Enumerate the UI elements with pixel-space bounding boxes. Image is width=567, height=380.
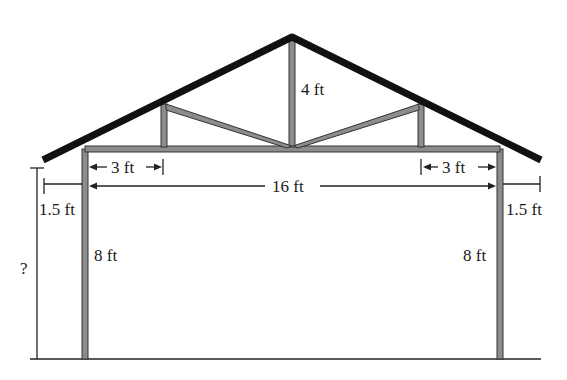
- right-overhang-dimension: [503, 176, 540, 192]
- unknown-height-label: ?: [20, 260, 28, 277]
- left-overhang-dimension: [44, 178, 82, 194]
- left-wall-height-label: 8 ft: [94, 247, 117, 264]
- right-wall-height-label: 8 ft: [463, 247, 486, 264]
- right-inner-span-label: 3 ft: [442, 159, 465, 176]
- right-wall-post: [497, 149, 503, 359]
- unknown-height-dimension: [30, 168, 44, 359]
- right-overhang-label: 1.5 ft: [506, 201, 542, 218]
- left-inner-span-label: 3 ft: [111, 159, 134, 176]
- king-post-height-label: 4 ft: [301, 81, 324, 98]
- king-post: [289, 40, 295, 147]
- left-diagonal-brace: [166, 104, 292, 148]
- left-wall-post: [82, 149, 88, 359]
- total-span-label: 16 ft: [272, 178, 304, 195]
- right-diagonal-brace: [293, 104, 419, 148]
- left-overhang-label: 1.5 ft: [39, 201, 75, 218]
